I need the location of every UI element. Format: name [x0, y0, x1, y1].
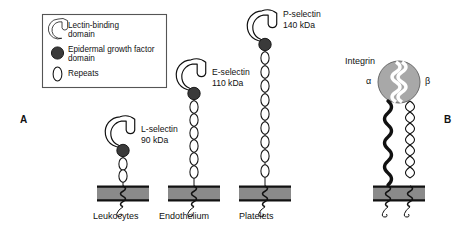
cell-label-endothelium: Endothelium	[159, 212, 209, 222]
legend-label-repeats: Repeats	[68, 70, 99, 79]
panel-letter-b: B	[444, 115, 452, 126]
e-selectin-egf-domain	[188, 87, 200, 99]
legend-label-lectin-line2: domain	[68, 31, 95, 40]
integrin-beta-stalk	[406, 101, 415, 178]
legend-label-egf-line2: domain	[68, 55, 95, 64]
egf-domain-icon	[51, 47, 63, 59]
l-selectin-repeats	[119, 158, 127, 182]
p-selectin-name: P-selectin	[283, 10, 321, 19]
integrin-beta-label: β	[425, 77, 430, 87]
molecule-integrin	[373, 61, 425, 217]
e-selectin-name: E-selectin	[212, 68, 250, 77]
integrin-name-label: Integrin	[345, 57, 375, 67]
integrin-alpha-stalk	[385, 101, 392, 185]
cell-label-leukocytes: Leukocytes	[93, 212, 139, 222]
e-selectin-lectin-head	[176, 59, 205, 90]
l-selectin-name: L-selectin	[141, 125, 178, 134]
l-selectin-egf-domain	[117, 144, 129, 156]
l-selectin-lectin-head	[105, 116, 134, 147]
e-selectin-repeats	[190, 101, 198, 178]
l-selectin-mass: 90 kDa	[141, 136, 168, 145]
membrane-endothelium	[168, 186, 220, 201]
membrane-integrin	[373, 186, 425, 201]
membrane-leukocytes	[97, 186, 149, 201]
p-selectin-egf-domain	[259, 38, 271, 50]
molecule-p-selectin	[239, 10, 291, 217]
panel-letter-a: A	[20, 115, 28, 126]
repeats-icon	[53, 67, 62, 81]
figure-canvas: Lectin-binding domain Epidermal growth f…	[0, 0, 473, 231]
p-selectin-mass: 140 kDa	[283, 21, 315, 30]
p-selectin-lectin-head	[247, 10, 276, 41]
membrane-platelets	[239, 186, 291, 201]
e-selectin-mass: 110 kDa	[212, 79, 243, 88]
integrin-alpha-label: α	[366, 77, 371, 87]
p-selectin-repeats	[261, 52, 269, 177]
cell-label-platelets: Platelets	[239, 212, 274, 222]
